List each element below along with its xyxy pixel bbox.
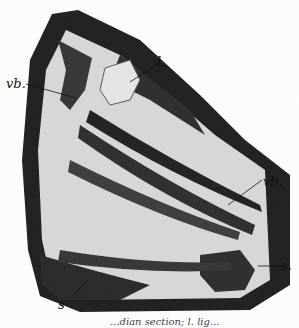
figure-caption: ...dian section; l. lig... xyxy=(110,316,219,327)
label-vb-left: vb. xyxy=(6,77,26,90)
micrograph-figure xyxy=(0,0,299,328)
label-l: l. xyxy=(157,55,165,68)
label-s-right: s. xyxy=(281,259,292,272)
label-s-left: s xyxy=(58,298,65,311)
label-vb-right: vb. xyxy=(263,175,283,188)
